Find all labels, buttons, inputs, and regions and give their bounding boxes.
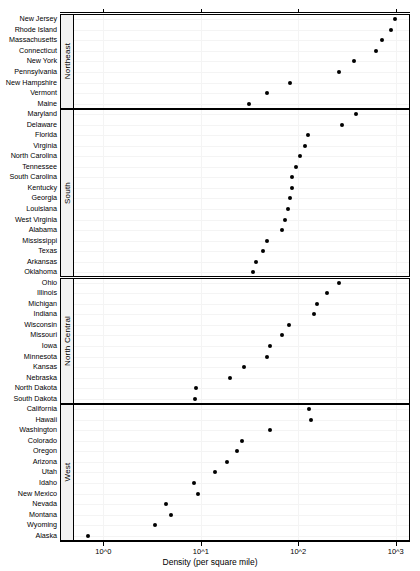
panel-strip-west: West (60, 404, 74, 541)
y-axis-tick-label: Georgia (0, 194, 57, 202)
y-axis-tick-label: Virginia (0, 142, 57, 150)
y-axis-tick-label: Washington (0, 426, 57, 434)
gridline-vertical (298, 109, 299, 278)
data-point (261, 249, 265, 253)
gridline-horizontal (74, 61, 410, 62)
data-point (242, 365, 246, 369)
data-point (280, 228, 284, 232)
gridline-vertical (201, 278, 202, 404)
data-point (294, 165, 298, 169)
y-axis-tick-label: South Dakota (0, 395, 57, 403)
gridline-horizontal (74, 346, 410, 347)
gridline-vertical (396, 404, 397, 541)
data-point (265, 91, 269, 95)
gridline-horizontal (74, 357, 410, 358)
y-axis-tick-label: Arkansas (0, 258, 57, 266)
gridline-horizontal (74, 230, 410, 231)
data-point (315, 302, 319, 306)
panel-strip-north-central: North Central (60, 278, 74, 404)
x-axis-title: Density (per square mile) (0, 557, 420, 567)
gridline-horizontal (74, 483, 410, 484)
x-axis-tick (103, 542, 104, 546)
y-axis-tick-label: New Mexico (0, 490, 57, 498)
gridline-horizontal (74, 146, 410, 147)
data-point (288, 196, 292, 200)
gridline-vertical (201, 14, 202, 109)
gridline-horizontal (74, 378, 410, 379)
gridline-horizontal (74, 177, 410, 178)
y-axis-tick-label: Nebraska (0, 374, 57, 382)
x-axis-tick-label: 10^1 (193, 548, 209, 556)
data-point (169, 513, 173, 517)
y-axis-tick-label: Florida (0, 131, 57, 139)
gridline-horizontal (74, 262, 410, 263)
data-point (194, 386, 198, 390)
data-point (354, 112, 358, 116)
y-axis-tick-label: Alaska (0, 532, 57, 540)
data-point (290, 175, 294, 179)
data-point (240, 439, 244, 443)
gridline-horizontal (74, 293, 410, 294)
gridline-horizontal (74, 314, 410, 315)
y-axis-tick-label: Alabama (0, 226, 57, 234)
y-axis-tick-label: New Jersey (0, 15, 57, 23)
y-axis-tick-label: New York (0, 57, 57, 65)
data-point (265, 239, 269, 243)
data-point (286, 207, 290, 211)
x-axis-line-bottom (60, 541, 410, 542)
data-point (196, 492, 200, 496)
data-point (228, 376, 232, 380)
y-axis-tick-label: Louisiana (0, 205, 57, 213)
y-axis-tick-label: California (0, 405, 57, 413)
gridline-horizontal (74, 525, 410, 526)
y-axis-tick-label: Rhode Island (0, 26, 57, 34)
plot-area (74, 278, 410, 404)
y-axis-tick-label: Oklahoma (0, 268, 57, 276)
gridline-vertical (103, 14, 104, 109)
y-axis-tick-label: West Virginia (0, 216, 57, 224)
y-axis-tick-label: Massachusetts (0, 36, 57, 44)
data-point (307, 407, 311, 411)
y-axis-tick-label: Colorado (0, 437, 57, 445)
data-point (306, 133, 310, 137)
data-point (280, 333, 284, 337)
data-point (192, 481, 196, 485)
gridline-horizontal (74, 241, 410, 242)
y-axis-tick-label: Iowa (0, 342, 57, 350)
y-axis-tick-label: Connecticut (0, 47, 57, 55)
data-point (268, 344, 272, 348)
panel-strip-label: Northeast (62, 43, 71, 79)
x-axis-tick-label: 10^3 (388, 548, 404, 556)
panel-northeast: Northeast (60, 14, 410, 109)
y-axis-tick-label: Utah (0, 468, 57, 476)
gridline-horizontal (74, 472, 410, 473)
panel-west: West (60, 404, 410, 541)
gridline-horizontal (74, 536, 410, 537)
y-axis-tick-label: Hawaii (0, 416, 57, 424)
y-axis-tick-label: Indiana (0, 310, 57, 318)
y-axis-tick-label: Vermont (0, 89, 57, 97)
y-axis-tick-label: Nevada (0, 500, 57, 508)
data-point (283, 218, 287, 222)
data-point (352, 59, 356, 63)
data-point (337, 70, 341, 74)
y-axis-tick-label: Michigan (0, 300, 57, 308)
panel-strip-northeast: Northeast (60, 14, 74, 109)
data-point (325, 291, 329, 295)
gridline-horizontal (74, 251, 410, 252)
y-axis-tick-label: Illinois (0, 289, 57, 297)
gridline-vertical (103, 404, 104, 541)
data-point (309, 418, 313, 422)
gridline-horizontal (74, 104, 410, 105)
gridline-horizontal (74, 388, 410, 389)
gridline-horizontal (74, 19, 410, 20)
gridline-vertical (298, 278, 299, 404)
y-axis-tick-label: Mississippi (0, 237, 57, 245)
data-point (340, 123, 344, 127)
x-axis-tick (298, 542, 299, 546)
panel-north-central: North Central (60, 278, 410, 404)
gridline-horizontal (74, 198, 410, 199)
gridline-horizontal (74, 283, 410, 284)
panel-strip-label: North Central (62, 316, 71, 366)
data-point (374, 49, 378, 53)
